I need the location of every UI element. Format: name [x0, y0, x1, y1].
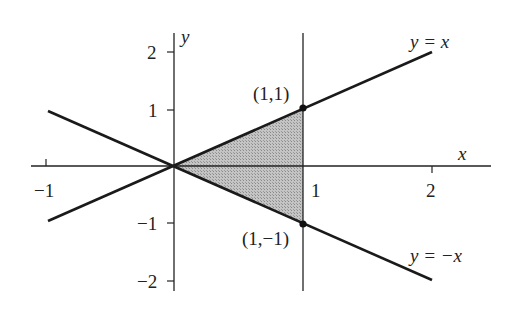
label-point-1-1: (1,1) — [253, 83, 289, 105]
x-tick-label-neg1: −1 — [34, 180, 54, 201]
point-1-neg1 — [299, 220, 306, 227]
y-tick-label-2: 2 — [147, 42, 157, 63]
y-axis-label: y — [179, 26, 190, 47]
label-y-equals-x: y = x — [408, 31, 450, 52]
x-tick-label-1: 1 — [311, 180, 321, 201]
x-axis-label: x — [457, 143, 467, 164]
y-tick-label-1: 1 — [148, 100, 158, 121]
diagram-canvas: x y −1 1 2 2 1 −1 −2 y = x y = −x (1,1) … — [0, 0, 523, 310]
y-tick-label-neg2: −2 — [137, 271, 157, 292]
point-1-1 — [299, 104, 306, 111]
x-tick-label-2: 2 — [426, 180, 436, 201]
label-y-equals-neg-x: y = −x — [408, 245, 463, 266]
label-point-1-neg1: (1,−1) — [242, 228, 289, 250]
y-tick-label-neg1: −1 — [137, 213, 157, 234]
